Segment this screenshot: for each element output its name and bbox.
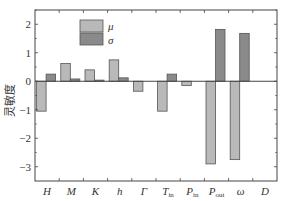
bar-sigma-8 xyxy=(240,33,250,81)
x-tick-label: M xyxy=(66,185,77,197)
x-tick-label: D xyxy=(260,185,269,197)
x-tick-label: K xyxy=(91,185,100,197)
bar-mu-0 xyxy=(37,81,47,111)
x-tick-label: ω xyxy=(237,185,245,197)
y-tick-label: −2 xyxy=(19,132,31,144)
bars-group xyxy=(37,29,250,164)
bar-mu-1 xyxy=(61,64,71,82)
bar-mu-2 xyxy=(85,70,95,81)
y-tick-label: 0 xyxy=(26,75,32,87)
bar-mu-4 xyxy=(133,81,143,91)
legend-swatch-mu xyxy=(80,20,103,32)
y-tick-label: −1 xyxy=(19,104,31,116)
y-tick-label: −3 xyxy=(19,161,31,173)
legend-label-sigma: σ xyxy=(108,34,114,46)
x-tick-label: h xyxy=(117,185,123,197)
x-tick-label: Pout xyxy=(208,185,225,199)
y-tick-label: 1 xyxy=(26,47,32,59)
x-tick-label: Pin xyxy=(185,185,199,199)
bar-mu-5 xyxy=(158,81,168,111)
legend-swatch-sigma xyxy=(80,33,103,45)
bar-sigma-0 xyxy=(46,74,56,81)
bar-sigma-7 xyxy=(216,29,226,81)
y-axis-label: 灵敏度 xyxy=(3,84,17,117)
x-tick-label: Tin xyxy=(162,185,174,199)
bar-mu-3 xyxy=(109,60,119,81)
legend-label-mu: μ xyxy=(107,20,114,32)
y-tick-label: 2 xyxy=(26,18,32,30)
sensitivity-bar-chart: −3−2−1012 HMKhΓTinPinPoutωD μ σ 灵敏度 xyxy=(0,0,283,201)
bar-mu-7 xyxy=(206,81,216,164)
bar-sigma-5 xyxy=(167,74,177,81)
bar-sigma-3 xyxy=(119,78,129,81)
legend: μ σ xyxy=(80,20,114,46)
x-tick-label: H xyxy=(42,185,52,197)
bar-mu-8 xyxy=(230,81,240,159)
x-tick-label: Γ xyxy=(140,185,148,197)
bar-mu-6 xyxy=(182,81,192,85)
